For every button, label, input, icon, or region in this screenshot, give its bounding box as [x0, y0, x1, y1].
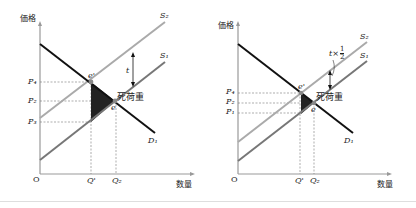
price-label-p4: P₄ [226, 88, 235, 96]
curve-label-s1: S₁ [160, 52, 169, 60]
x-axis-label: 数量 [377, 181, 393, 189]
deadweight-label: 死荷重 [316, 93, 343, 102]
right-diagram: 価格 数量 O P₄ P₂ P₁ Q' Q₂ S₂ S₁ D₁ e' e t× … [208, 0, 416, 200]
tax-fraction-denominator: 2 [340, 54, 344, 61]
point-label-e: e [311, 106, 316, 114]
quantity-label-q-prime: Q' [295, 177, 304, 185]
right-diagram-graphic [208, 0, 416, 200]
price-label-p4: P₄ [28, 78, 37, 86]
bottom-divider [0, 201, 416, 202]
point-label-e-prime: e' [88, 72, 95, 80]
y-axis-label: 価格 [218, 22, 234, 30]
curve-label-s2: S₂ [160, 12, 169, 20]
deadweight-label: 死荷重 [117, 93, 144, 102]
x-axis-label: 数量 [176, 181, 192, 189]
curve-label-s1: S₁ [360, 52, 369, 60]
origin-label: O [33, 176, 40, 184]
price-label-p2: P₂ [226, 98, 235, 106]
left-diagram: 価格 数量 O P₄ P₂ P₃ Q' Q₂ S₂ S₁ D₁ e' e t 死… [0, 0, 208, 200]
price-label-p1: P₁ [226, 108, 235, 116]
price-label-p3: P₃ [28, 118, 37, 126]
tax-label-prefix: t× [329, 50, 339, 58]
tax-fraction: 1 2 [340, 46, 344, 61]
y-axis-label: 価格 [20, 15, 36, 23]
curve-label-d1: D₁ [344, 137, 354, 145]
point-label-e: e [111, 104, 116, 112]
quantity-label-q-prime: Q' [87, 177, 96, 185]
tax-label: t [126, 67, 129, 75]
curve-label-s2: S₂ [360, 33, 369, 41]
point-label-e-prime: e' [298, 83, 305, 91]
quantity-label-q2: Q₂ [310, 177, 320, 185]
quantity-label-q2: Q₂ [112, 177, 122, 185]
price-label-p2: P₂ [28, 97, 37, 105]
tax-label: t× 1 2 [329, 46, 344, 61]
curve-label-d1: D₁ [148, 137, 158, 145]
origin-label: O [231, 176, 238, 184]
